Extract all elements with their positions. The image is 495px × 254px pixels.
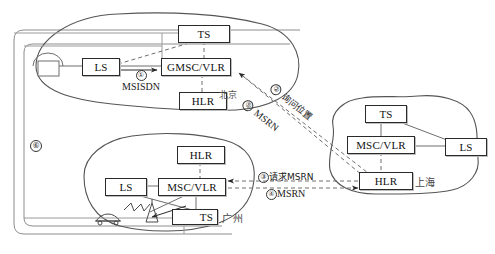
node-label: TS — [379, 108, 392, 120]
flow-text: MSISDN — [110, 81, 172, 92]
circled-number: ① — [136, 70, 147, 81]
flow-number: ① — [110, 70, 172, 81]
region-label-beijing: 北京 — [219, 88, 237, 101]
flow-label-3-request-msrn: ③请求MSRN — [258, 170, 313, 183]
node-label: MSC/VLR — [356, 139, 406, 151]
diagram-canvas: TS LS GMSC/VLR HLR TS MSC/VLR LS HLR HLR… — [0, 0, 495, 254]
circled-number: ④ — [266, 189, 277, 200]
circled-number: ⑥ — [30, 140, 42, 152]
node-label: LS — [119, 181, 132, 193]
node-label: LS — [94, 61, 107, 73]
node-sh-ls[interactable]: LS — [445, 138, 487, 156]
region-label-guangzhou: 广州 — [222, 210, 244, 225]
node-gz-ts[interactable]: TS — [172, 209, 218, 225]
node-bj-ts[interactable]: TS — [178, 25, 230, 43]
inner-frame-rect — [24, 44, 290, 52]
node-label: HLR — [190, 149, 213, 161]
node-gz-hlr[interactable]: HLR — [177, 146, 225, 164]
outer-frame-rect — [14, 30, 300, 40]
node-gz-ls[interactable]: LS — [105, 178, 147, 196]
node-label: MSC/VLR — [167, 181, 217, 193]
circled-number: ③ — [258, 172, 269, 183]
node-label: GMSC/VLR — [167, 61, 225, 73]
flow-text: MSRN — [277, 188, 305, 199]
flow-text: 请求MSRN — [269, 172, 313, 182]
node-label: HLR — [192, 95, 215, 107]
flow-label-4-msrn: ④MSRN — [266, 188, 305, 200]
node-label: LS — [459, 141, 472, 153]
car-icon — [95, 214, 121, 225]
region-name: 北京 — [219, 90, 237, 100]
node-gz-msc-vlr[interactable]: MSC/VLR — [158, 178, 226, 196]
radio-wave-icon — [124, 203, 150, 211]
region-name: 广州 — [222, 213, 244, 224]
node-label: TS — [197, 28, 210, 40]
arrow-flow5-msrn — [244, 77, 368, 180]
region-label-shanghai: 上海 — [415, 174, 435, 189]
region-name: 上海 — [415, 177, 435, 188]
telephone-icon — [33, 53, 63, 76]
node-sh-ts[interactable]: TS — [365, 105, 407, 123]
flow-label-1-msisdn: ① MSISDN — [110, 70, 172, 92]
flow-label-6: ⑥ — [30, 136, 42, 154]
node-label: HLR — [375, 175, 398, 187]
node-label: TS — [200, 211, 213, 223]
diagram-vector-layer — [0, 0, 495, 254]
node-sh-msc-vlr[interactable]: MSC/VLR — [347, 136, 415, 154]
node-sh-hlr[interactable]: HLR — [359, 172, 413, 190]
